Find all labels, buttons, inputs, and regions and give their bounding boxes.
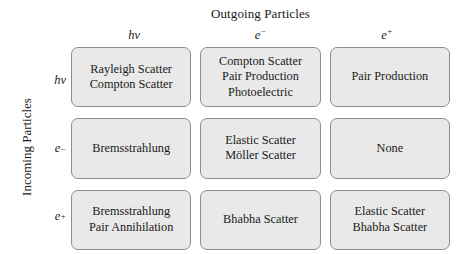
interaction-label: Bhabha Scatter — [223, 212, 298, 228]
particle-interaction-matrix-figure: Outgoing Particles hν e− e+ Incoming Par… — [0, 0, 468, 254]
interaction-label: Bremsstrahlung — [92, 141, 170, 157]
column-header-electron-superscript: − — [260, 26, 266, 36]
interaction-label: Compton Scatter — [219, 54, 302, 70]
column-header-electron: e− — [197, 26, 323, 45]
interaction-label: Rayleigh Scatter — [90, 62, 172, 78]
interaction-label: Bremsstrahlung — [92, 204, 170, 220]
matrix-cell-positron-photon: Bremsstrahlung Pair Annihilation — [71, 190, 191, 250]
row-header-photon: hν — [32, 47, 66, 115]
interaction-label: Elastic Scatter — [225, 133, 296, 149]
interaction-label: Elastic Scatter — [354, 204, 425, 220]
column-header-positron: e+ — [324, 26, 450, 45]
matrix-cell-electron-electron: Elastic Scatter Möller Scatter — [200, 118, 320, 178]
row-header-electron: e− — [32, 115, 66, 183]
row-header-positron: e+ — [32, 182, 66, 250]
matrix-cell-positron-electron: Bhabha Scatter — [200, 190, 320, 250]
matrix-cell-electron-positron: None — [330, 118, 450, 178]
matrix-cell-positron-positron: Elastic Scatter Bhabha Scatter — [330, 190, 450, 250]
matrix-cell-electron-photon: Bremsstrahlung — [71, 118, 191, 178]
interaction-label: Compton Scatter — [90, 77, 173, 93]
column-header-photon-base: hν — [128, 28, 140, 42]
interaction-label: Photoelectric — [228, 85, 293, 101]
interaction-label: Pair Production — [222, 69, 299, 85]
interaction-label: Pair Production — [351, 69, 428, 85]
row-header-photon-base: hν — [54, 73, 66, 88]
matrix-cell-photon-electron: Compton Scatter Pair Production Photoele… — [200, 47, 320, 107]
column-header-photon: hν — [71, 26, 197, 45]
interaction-label: Pair Annihilation — [89, 220, 173, 236]
outgoing-particles-axis-title: Outgoing Particles — [71, 6, 450, 22]
row-header-column: hν e− e+ — [32, 47, 66, 250]
interaction-label: None — [377, 141, 404, 157]
interaction-matrix-grid: Rayleigh Scatter Compton Scatter Compton… — [71, 47, 450, 250]
column-header-row: hν e− e+ — [71, 26, 450, 45]
interaction-label: Möller Scatter — [225, 148, 296, 164]
column-header-positron-superscript: + — [387, 26, 393, 36]
interaction-label: Bhabha Scatter — [352, 220, 427, 236]
matrix-cell-photon-positron: Pair Production — [330, 47, 450, 107]
matrix-cell-photon-photon: Rayleigh Scatter Compton Scatter — [71, 47, 191, 107]
